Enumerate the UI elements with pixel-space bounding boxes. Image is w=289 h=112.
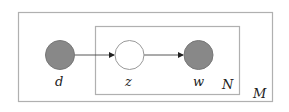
node-w-label: w [193,74,204,89]
plate-inner-label: N [221,77,234,92]
node-z-label: z [124,74,132,89]
plate-diagram: d z w N M [0,0,289,112]
node-z-latent [115,41,144,70]
plate-outer-label: M [252,86,267,101]
node-d-observed [46,41,75,70]
node-w-observed [184,41,213,70]
node-d-label: d [55,74,63,89]
